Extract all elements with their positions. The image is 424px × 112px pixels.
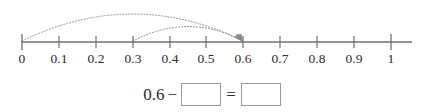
equation: 0.6 − = bbox=[143, 80, 280, 108]
subtrahend-answer-box[interactable] bbox=[181, 83, 221, 106]
minus-sign: − bbox=[168, 86, 178, 103]
tick-label-0-1: 0.1 bbox=[50, 52, 67, 66]
difference-answer-box[interactable] bbox=[241, 83, 281, 106]
tick-label-0-2: 0.2 bbox=[87, 52, 104, 66]
equals-sign: = bbox=[226, 86, 236, 103]
worksheet-page: 0 0.1 0.2 0.3 0.4 0.5 0.6 0.7 0.8 0.9 1 … bbox=[0, 0, 424, 112]
tick-label-0-6: 0.6 bbox=[234, 52, 251, 66]
tick-label-0-9: 0.9 bbox=[345, 52, 362, 66]
tick-label-0-4: 0.4 bbox=[161, 52, 178, 66]
tick-label-0-8: 0.8 bbox=[308, 52, 325, 66]
minuend-value: 0.6 bbox=[143, 86, 164, 103]
number-line-figure: 0 0.1 0.2 0.3 0.4 0.5 0.6 0.7 0.8 0.9 1 bbox=[0, 0, 424, 70]
inner-arc-path bbox=[133, 27, 243, 42]
tick-label-0-3: 0.3 bbox=[124, 52, 141, 66]
tick-label-0-7: 0.7 bbox=[271, 52, 288, 66]
tick-label-1: 1 bbox=[388, 52, 395, 66]
tick-label-0-5: 0.5 bbox=[197, 52, 214, 66]
tick-label-0: 0 bbox=[19, 52, 26, 66]
equation-row: 0.6 − = bbox=[0, 78, 424, 110]
